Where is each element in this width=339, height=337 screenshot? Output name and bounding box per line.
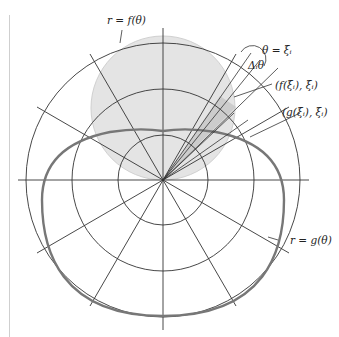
delta-theta-label: Δᵢθ [247, 59, 265, 71]
g-curve-label: r = g(θ) [290, 234, 332, 246]
polar-diagram: r = f(θ) θ = ξᵢ Δᵢθ (f(ξᵢ), ξᵢ) (g(ξᵢ), … [0, 0, 339, 337]
f-point-label: (f(ξᵢ), ξᵢ) [275, 79, 318, 91]
g-point-label: (g(ξᵢ), ξᵢ) [282, 106, 328, 118]
f-curve-label: r = f(θ) [107, 14, 146, 26]
theta-label: θ = ξᵢ [262, 44, 292, 56]
